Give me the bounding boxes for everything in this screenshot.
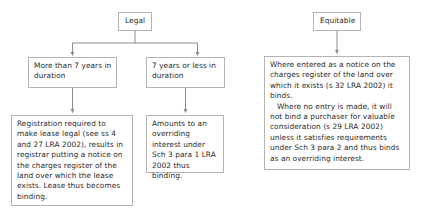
node-registration-required[interactable]: Registration required to make lease lega… [11,115,133,206]
node-legal[interactable]: Legal [118,12,152,31]
node-overriding-interest[interactable]: Amounts to an overriding interest under … [146,115,224,173]
node-equitable-detail[interactable]: Where entered as a notice on the charges… [264,56,410,170]
connector-legal-to-branch-split [73,31,198,43]
flowchart-canvas: Legal Equitable More than 7 years in dur… [0,0,423,219]
equitable-detail-paragraph-1: Where entered as a notice on the charges… [270,60,405,102]
node-equitable[interactable]: Equitable [313,12,361,31]
equitable-detail-paragraph-2: Where no entry is made, it will not bind… [270,102,405,164]
node-more-than-7-years[interactable]: More than 7 years in duration [28,57,117,88]
node-7-years-or-less[interactable]: 7 years or less in duration [146,57,225,88]
